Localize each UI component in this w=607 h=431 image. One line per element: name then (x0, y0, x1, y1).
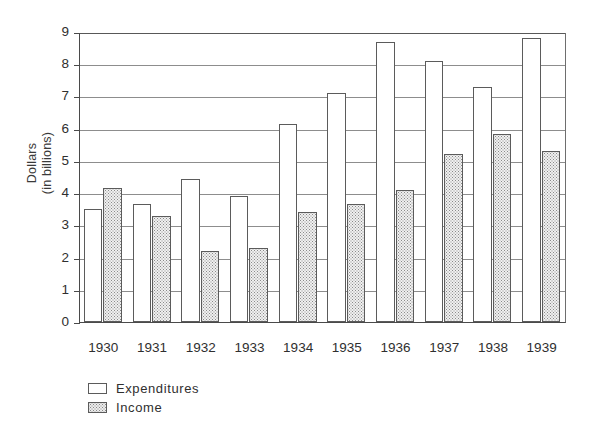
y-axis-tick-label: 7 (47, 88, 69, 103)
bar-expenditures-1935 (327, 93, 346, 322)
x-axis-tick-label-1935: 1935 (324, 340, 370, 355)
legend-swatch-expenditures-icon (88, 383, 107, 394)
y-axis-tick (74, 323, 80, 324)
y-axis-tick-label: 6 (47, 121, 69, 136)
bar-expenditures-1938 (473, 87, 492, 322)
bar-expenditures-1937 (425, 61, 444, 322)
bar-income-1939 (542, 151, 561, 322)
x-axis-tick-label-1938: 1938 (470, 340, 516, 355)
x-axis-tick-label-1936: 1936 (373, 340, 419, 355)
legend-item-income: Income (88, 399, 199, 416)
y-axis-tick-label: 3 (47, 217, 69, 232)
bar-income-1937 (444, 154, 463, 322)
legend-swatch-income-icon (88, 402, 107, 413)
bar-expenditures-1934 (279, 124, 298, 322)
bar-expenditures-1933 (230, 196, 249, 322)
bar-expenditures-1931 (133, 204, 152, 322)
bar-income-1930 (103, 188, 122, 322)
bars-layer (80, 33, 565, 322)
y-axis-tick-label: 1 (47, 282, 69, 297)
y-axis-tick-label: 8 (47, 56, 69, 71)
bar-income-1938 (493, 134, 512, 323)
x-axis-tick-label-1934: 1934 (275, 340, 321, 355)
bar-expenditures-1939 (522, 38, 541, 322)
legend-label-expenditures: Expenditures (116, 381, 199, 396)
legend-item-expenditures: Expenditures (88, 380, 199, 397)
y-axis-title-line-1: Dollars (25, 93, 40, 233)
bar-income-1931 (152, 216, 171, 322)
x-axis-tick-label-1932: 1932 (178, 340, 224, 355)
y-axis-tick-label: 4 (47, 185, 69, 200)
y-axis-tick-label: 0 (47, 314, 69, 329)
bar-chart: Dollars (in billions) 0123456789 1930193… (0, 0, 607, 431)
x-axis-tick-label-1939: 1939 (519, 340, 565, 355)
x-axis-tick-label-1937: 1937 (421, 340, 467, 355)
bar-income-1933 (249, 248, 268, 322)
chart-legend: Expenditures Income (88, 380, 199, 418)
x-axis-tick-label-1933: 1933 (226, 340, 272, 355)
bar-income-1936 (396, 190, 415, 322)
x-axis-tick-label-1931: 1931 (129, 340, 175, 355)
bar-expenditures-1936 (376, 42, 395, 322)
y-axis-tick-label: 5 (47, 153, 69, 168)
legend-label-income: Income (116, 400, 162, 415)
bar-income-1934 (298, 212, 317, 322)
y-axis-tick-label: 2 (47, 250, 69, 265)
bar-expenditures-1930 (84, 209, 103, 322)
y-axis-tick-label: 9 (47, 24, 69, 39)
bar-income-1935 (347, 204, 366, 322)
plot-area (79, 33, 566, 323)
x-axis-tick-label-1930: 1930 (80, 340, 126, 355)
bar-expenditures-1932 (181, 179, 200, 322)
bar-income-1932 (201, 251, 220, 322)
